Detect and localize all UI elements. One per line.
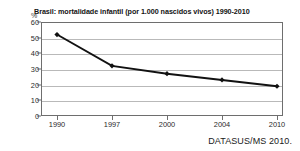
data-point-marker (164, 71, 169, 76)
data-series-line (41, 22, 283, 116)
y-tick-label-10: 10 (17, 96, 39, 105)
y-tick-label-40: 40 (17, 49, 39, 58)
chart-figure: Brasil: mortalidade infantil (por 1.000 … (0, 0, 300, 151)
y-tick-label-30: 30 (17, 65, 39, 74)
x-tick-label-2000: 2000 (147, 120, 187, 129)
x-tick-label-2010: 2010 (257, 120, 297, 129)
y-tick-label-0: 0 (17, 112, 39, 121)
data-point-marker (274, 84, 279, 89)
source-note: DATASUS/MS 2010. (208, 136, 292, 146)
x-tick-label-2004: 2004 (202, 120, 242, 129)
series-line (57, 35, 277, 87)
y-tick-label-50: 50 (17, 33, 39, 42)
y-tick-label-20: 20 (17, 80, 39, 89)
data-point-marker (219, 77, 224, 82)
x-tick-label-1997: 1997 (92, 120, 132, 129)
x-tick-label-1990: 1990 (37, 120, 77, 129)
y-tick-label-60: 60 (17, 18, 39, 27)
